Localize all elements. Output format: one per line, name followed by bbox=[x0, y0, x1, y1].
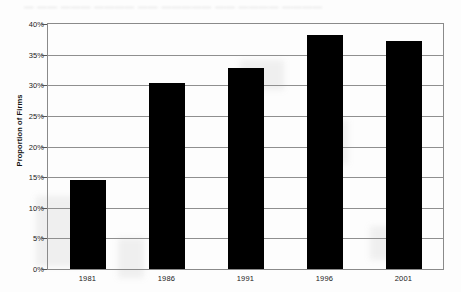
y-axis-tick-label: 10% bbox=[4, 203, 44, 212]
chart-page: — —— ——— ———— —— ————— —— ———— ———— Prop… bbox=[0, 0, 461, 292]
bar bbox=[70, 180, 106, 269]
bar bbox=[386, 41, 422, 269]
bar bbox=[307, 35, 343, 269]
x-axis-tick-label: 1996 bbox=[316, 274, 334, 283]
y-axis-tick-label: 5% bbox=[4, 234, 44, 243]
scan-bleedthrough-text: — —— ——— ———— —— ————— —— ———— ———— bbox=[24, 1, 444, 15]
x-axis-tick-label: 1986 bbox=[158, 274, 176, 283]
bar bbox=[228, 68, 264, 269]
y-axis-tick-label: 25% bbox=[4, 111, 44, 120]
y-axis-tick-labels: 0%5%10%15%20%25%30%35%40% bbox=[0, 0, 44, 292]
y-axis-tick-label: 20% bbox=[4, 142, 44, 151]
x-axis-tick-label: 1981 bbox=[79, 274, 97, 283]
y-axis-tick-label: 0% bbox=[4, 265, 44, 274]
y-axis-tick-label: 35% bbox=[4, 50, 44, 59]
x-axis-tick-label: 2001 bbox=[395, 274, 413, 283]
y-axis-tick-label: 40% bbox=[4, 20, 44, 29]
bar-series bbox=[48, 24, 443, 269]
x-axis-tick-label: 1991 bbox=[237, 274, 255, 283]
y-axis-tick-label: 15% bbox=[4, 173, 44, 182]
bar bbox=[149, 83, 185, 269]
x-axis-tick-labels: 19811986199119962001 bbox=[47, 274, 444, 288]
y-axis-tick-label: 30% bbox=[4, 81, 44, 90]
plot-area bbox=[47, 23, 444, 270]
